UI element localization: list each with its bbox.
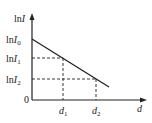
guide-lines (32, 58, 96, 100)
origin-label: 0 (24, 94, 29, 105)
y-tick-lnI0: lnI0 (6, 34, 21, 47)
x-axis-arrow-icon (140, 98, 147, 103)
y-tick-lnI1: lnI1 (6, 53, 21, 66)
x-axis-label: d (137, 103, 143, 114)
data-line (32, 39, 109, 87)
y-axis-arrow-icon (30, 13, 35, 20)
y-tick-lnI2: lnI2 (6, 74, 21, 87)
line-chart: lnI lnI0 lnI1 lnI2 0 d1 d2 d (0, 0, 152, 123)
x-tick-d2: d2 (92, 105, 101, 118)
y-axis-label: lnI (14, 13, 26, 24)
x-tick-d1: d1 (59, 105, 68, 118)
